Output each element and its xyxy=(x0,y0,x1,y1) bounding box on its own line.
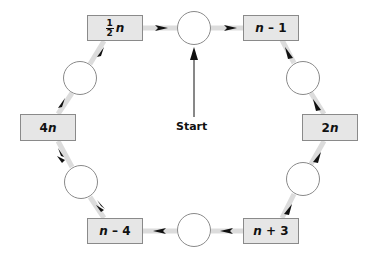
node-label-coef: 4 xyxy=(40,121,48,135)
node-label-rest: – 1 xyxy=(264,21,287,35)
fraction-numerator: 1 xyxy=(106,19,114,29)
node-circle-bottom xyxy=(177,213,211,247)
node-2n: 2 n xyxy=(302,114,358,141)
node-n-minus-1: n – 1 xyxy=(243,15,299,41)
node-label-var: n xyxy=(48,121,57,135)
node-circle-top xyxy=(177,11,211,45)
node-4n: 4 n xyxy=(20,114,76,141)
start-label: Start xyxy=(176,120,207,133)
node-label-var: n xyxy=(330,121,339,135)
node-label-var: n xyxy=(116,21,125,35)
node-label-coef: 2 xyxy=(322,121,330,135)
node-label-var: n xyxy=(255,21,264,35)
fraction-denominator: 2 xyxy=(107,29,113,38)
node-n-minus-4: n – 4 xyxy=(87,218,143,244)
fraction: 1 2 xyxy=(106,19,114,38)
node-label-var: n xyxy=(99,224,108,238)
node-label-rest: – 4 xyxy=(108,224,131,238)
node-label-rest: + 3 xyxy=(262,224,289,238)
node-half-n: 1 2 n xyxy=(87,15,143,41)
node-circle-right-bottom xyxy=(286,162,320,196)
start-arrow-head-icon xyxy=(190,47,198,60)
node-n-plus-3: n + 3 xyxy=(243,218,299,244)
node-circle-left-bottom xyxy=(64,165,98,199)
node-label-var: n xyxy=(253,224,262,238)
node-circle-right-top xyxy=(286,61,320,95)
arrow-head-icon xyxy=(57,156,65,163)
node-circle-left-top xyxy=(63,61,97,95)
